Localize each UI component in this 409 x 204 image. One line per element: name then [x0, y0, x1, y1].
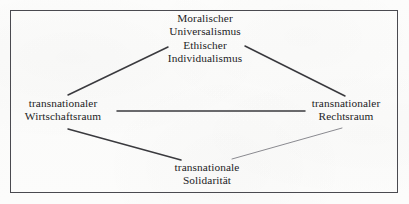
- node-bottom-line-1: transnationale: [148, 161, 266, 174]
- node-right-line-1: transnationaler: [291, 97, 401, 110]
- node-top-line-4: Individualismus: [131, 52, 279, 65]
- node-left-line-1: transnationaler: [8, 97, 118, 110]
- node-bottom-line-2: Solidarität: [148, 174, 266, 187]
- node-top-line-1: Moralischer: [131, 12, 279, 25]
- node-transnationale-solidaritaet: transnationale Solidarität: [148, 161, 266, 188]
- node-transnationaler-rechtsraum: transnationaler Rechtsraum: [291, 97, 401, 124]
- node-right-line-2: Rechtsraum: [291, 110, 401, 123]
- node-transnationaler-wirtschaftsraum: transnationaler Wirtschaftsraum: [8, 97, 118, 124]
- node-moralischer-universalismus: Moralischer Universalismus Ethischer Ind…: [131, 12, 279, 65]
- node-top-line-3: Ethischer: [131, 39, 279, 52]
- node-left-line-2: Wirtschaftsraum: [8, 110, 118, 123]
- node-top-line-2: Universalismus: [131, 25, 279, 38]
- diagram-canvas: Moralischer Universalismus Ethischer Ind…: [0, 0, 409, 204]
